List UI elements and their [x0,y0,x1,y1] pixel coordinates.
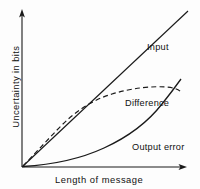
series-label-input: Input [147,43,169,52]
series-label-output-error: Output error [132,143,185,152]
uncertainty-vs-message-length-chart: Input Difference Output error Length of … [0,0,200,189]
y-axis-label: Uncertainty in bits [11,31,20,143]
chart-plot-area [0,0,200,189]
x-axis-label: Length of message [55,175,143,184]
series-label-difference: Difference [125,99,169,108]
